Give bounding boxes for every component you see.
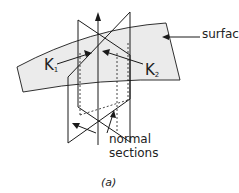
figure-tag: (a) [101, 177, 116, 188]
k2-label-main: K [145, 61, 155, 79]
surface-label: surface [202, 28, 239, 40]
k1-label: K1 [44, 58, 58, 74]
normal-arrowhead-icon [95, 12, 101, 21]
k1-label-sub: 1 [54, 66, 58, 74]
k2-label-sub: 2 [155, 71, 159, 79]
k1-label-main: K [44, 56, 54, 74]
k2-label: K2 [145, 63, 159, 79]
normal-sections-pointer-1 [76, 125, 96, 133]
